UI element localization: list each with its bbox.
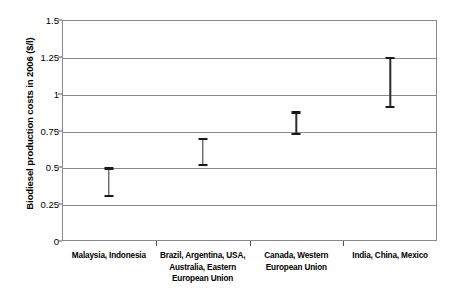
- range-bar-stem: [108, 167, 109, 196]
- x-axis-tick-mark: [156, 241, 157, 246]
- biodiesel-cost-range-chart: Biodiesel production costs in 2006 ($/l)…: [0, 0, 453, 298]
- y-axis-tick-mark: [58, 56, 62, 57]
- y-axis-tick-mark: [58, 93, 62, 94]
- y-axis-tick-mark: [58, 204, 62, 205]
- gridline: [63, 95, 436, 96]
- range-bar-stem: [296, 111, 297, 135]
- y-axis-tick-mark: [58, 167, 62, 168]
- y-axis-tick-label: 1: [19, 88, 59, 99]
- range-bar-cap-high: [104, 167, 113, 169]
- range-bar: [290, 111, 302, 135]
- category-label: Brazil, Argentina, USA, Australia, Easte…: [156, 250, 250, 296]
- range-bar-stem: [202, 138, 203, 166]
- range-bar: [197, 138, 209, 166]
- y-axis-tick-label: 0: [19, 236, 59, 247]
- range-bar-cap-high: [292, 111, 301, 113]
- range-bar-cap-low: [386, 106, 395, 108]
- y-axis-tick-label: 0.5: [19, 162, 59, 173]
- gridline: [63, 132, 436, 133]
- category-label: Canada, Western European Union: [250, 250, 344, 296]
- range-bar-cap-high: [198, 138, 207, 140]
- y-axis-tick-label: 0.75: [19, 125, 59, 136]
- y-axis-tick-label: 1.5: [19, 15, 59, 26]
- range-bar: [103, 167, 115, 196]
- category-axis-labels: Malaysia, IndonesiaBrazil, Argentina, US…: [62, 250, 437, 296]
- y-axis-tick-mark: [58, 241, 62, 242]
- category-label: India, China, Mexico: [343, 250, 437, 296]
- plot-area: [62, 20, 437, 241]
- range-bar-cap-low: [104, 195, 113, 197]
- gridline: [63, 168, 436, 169]
- range-bar: [384, 57, 396, 109]
- gridline: [63, 58, 436, 59]
- range-bar-cap-high: [386, 57, 395, 59]
- range-bar-cap-low: [292, 133, 301, 135]
- range-bar-stem: [389, 57, 390, 109]
- x-axis-tick-mark: [343, 241, 344, 246]
- x-axis-tick-mark: [250, 241, 251, 246]
- y-axis-tick-label: 1.25: [19, 51, 59, 62]
- category-label: Malaysia, Indonesia: [62, 250, 156, 296]
- y-axis-tick-mark: [58, 20, 62, 21]
- y-axis-tick-label: 0.25: [19, 199, 59, 210]
- gridline: [63, 205, 436, 206]
- range-bar-cap-low: [198, 164, 207, 166]
- y-axis-tick-mark: [58, 130, 62, 131]
